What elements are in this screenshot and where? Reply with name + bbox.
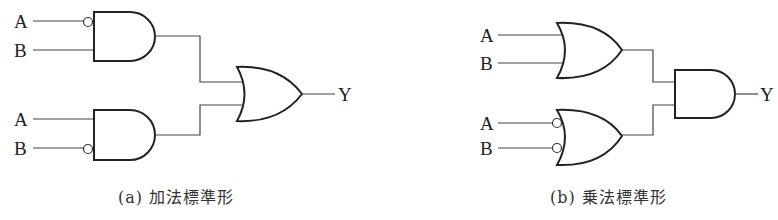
inverter-bubble-icon [553, 144, 562, 153]
inverter-bubble-icon [553, 119, 562, 128]
diagram-b: A B A B Y [480, 23, 774, 165]
output-label-y: Y [338, 84, 352, 105]
wire [155, 105, 242, 135]
and-gate-icon [94, 12, 155, 61]
inverter-bubble-icon [84, 18, 93, 27]
and-gate-icon [94, 110, 155, 160]
input-label-b: B [480, 138, 493, 159]
input-label-b: B [480, 53, 493, 74]
output-label-y: Y [760, 84, 774, 105]
or-gate-icon [557, 23, 622, 78]
caption-sum-of-products: (a) 加法標準形 [118, 184, 234, 208]
input-label-a: A [14, 109, 28, 130]
diagram-a: A B A B Y [14, 11, 352, 160]
input-label-b: B [14, 40, 27, 61]
wire [155, 36, 242, 82]
and-gate-icon [675, 70, 735, 118]
caption-product-of-sums: (b) 乗法標準形 [550, 184, 667, 208]
wire [622, 105, 675, 135]
or-gate-icon [557, 110, 622, 165]
input-label-b: B [14, 138, 27, 159]
wire [622, 50, 675, 82]
inverter-bubble-icon [84, 145, 93, 154]
input-label-a: A [14, 11, 28, 32]
input-label-a: A [480, 113, 494, 134]
input-label-a: A [480, 25, 494, 46]
or-gate-icon [237, 67, 302, 121]
